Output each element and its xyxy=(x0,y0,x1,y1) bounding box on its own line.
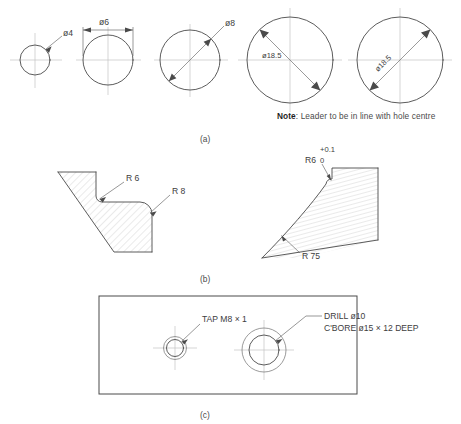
caption-b: (b) xyxy=(200,274,210,284)
radius-r6-tolerance-upper: +0.1 xyxy=(320,145,335,154)
plate-view: TAP M8 × 1 DRILL ø10 C'BORE ø15 × 12 DEE… xyxy=(99,296,419,394)
hole-dia-18-5-inside-aligned: ø18.5 xyxy=(348,8,452,112)
large-radius-section: R6 +0.1 0 R 75 xyxy=(262,145,378,261)
leader-note-text: Leader to be in line with hole centre xyxy=(301,111,436,121)
caption-c: (c) xyxy=(200,410,210,420)
tapped-hole-label: TAP M8 × 1 xyxy=(202,314,247,324)
hole-dia-6-label: ø6 xyxy=(99,17,109,27)
hole-dia-18-5-inside-horizontal: ø18.5 xyxy=(238,8,342,112)
tapped-hole: TAP M8 × 1 xyxy=(153,314,247,370)
hole-dia-18-5-horizontal-label: ø18.5 xyxy=(262,51,281,60)
radius-r75-label: R 75 xyxy=(302,251,320,261)
hole-dia-4-label: ø4 xyxy=(63,28,73,38)
hole-dia-6: ø6 xyxy=(76,17,141,95)
counterbore-spec-label: C'BORE ø15 × 12 DEEP xyxy=(324,323,419,333)
hole-dia-4: ø4 xyxy=(10,28,73,88)
leader-note: Note: Leader to be in line with hole cen… xyxy=(277,111,435,121)
technical-drawing-sheet: ø4 ø6 ø8 xyxy=(0,0,461,424)
radius-r6-label: R 6 xyxy=(126,173,140,183)
leader-note-keyword: Note xyxy=(277,111,296,121)
counterbore-drill-label: DRILL ø10 xyxy=(324,311,365,321)
hole-dia-8-label: ø8 xyxy=(225,18,235,28)
hole-dia-18-5-aligned-label: ø18.5 xyxy=(373,53,393,73)
hole-dia-8: ø8 xyxy=(154,18,235,97)
fillet-and-round-section: R 6 R 8 xyxy=(58,172,186,252)
radius-r6-toleranced-label: R6 xyxy=(305,155,316,165)
radius-r6-tolerance-lower: 0 xyxy=(320,156,324,165)
caption-a: (a) xyxy=(200,134,210,144)
counterbored-hole: DRILL ø10 C'BORE ø15 × 12 DEEP xyxy=(234,311,419,380)
radius-r8-label: R 8 xyxy=(172,186,186,196)
engineering-drawing-canvas: ø4 ø6 ø8 xyxy=(0,0,461,424)
